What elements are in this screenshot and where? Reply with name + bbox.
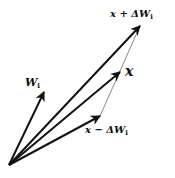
vector-x-plus-dw (9, 26, 140, 165)
label-x-minus-dw: x − ΔWi (85, 125, 128, 136)
vector-diagram: x + ΔWi Wi x x − ΔWi (0, 0, 175, 178)
label-text: x + ΔW (110, 8, 150, 19)
label-x: x (125, 64, 133, 78)
label-subscript: i (125, 128, 128, 137)
label-text: W (25, 76, 37, 89)
label-text: x (125, 63, 133, 79)
label-text: x − ΔW (85, 124, 125, 135)
label-subscript: i (150, 12, 153, 21)
vector-w-i (9, 92, 44, 165)
label-w-i: Wi (25, 77, 40, 89)
connector-line (100, 26, 140, 116)
label-subscript: i (37, 81, 40, 90)
vector-canvas (0, 0, 175, 178)
label-x-plus-dw: x + ΔWi (110, 9, 153, 20)
